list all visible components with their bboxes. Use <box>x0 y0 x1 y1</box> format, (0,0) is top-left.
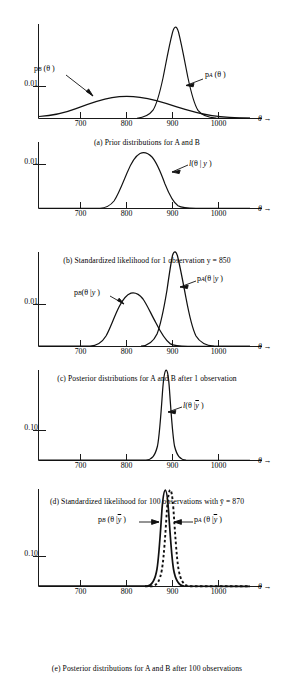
panel-e-curve-p-b-given-ybar <box>39 490 250 586</box>
panel-c: 0.01 θ → 700 800 900 1000 pB(θ | <box>0 246 294 364</box>
panel-e: 0.10 θ → 700 800 900 1000 pB (θ <box>0 487 294 605</box>
panel-a-label-p-a-theta: pA (θ ) <box>205 70 226 79</box>
panel-c-x-tick-800: 800 <box>112 347 141 356</box>
panel-e-plot: θ → <box>0 487 294 605</box>
panel-c-plot: θ → <box>0 246 294 364</box>
panel-b-curve-likelihood <box>39 153 250 209</box>
panel-e-x-tick-700: 700 <box>66 587 95 596</box>
panel-b-label-likelihood: l(θ | y ) <box>189 159 212 168</box>
panel-d-x-tick-700: 700 <box>66 461 95 470</box>
panel-c-x-tick-700: 700 <box>66 347 95 356</box>
panel-d-plot: θ → <box>0 364 294 482</box>
panel-d-x-tick-1000: 1000 <box>204 461 233 470</box>
panel-e-label-p-a-given-ybar: pA (θ |y ) <box>194 515 222 524</box>
panel-c-label-p-a-given-y: pA(θ |y ) <box>197 274 223 283</box>
panel-d-x-tick-900: 900 <box>158 461 187 470</box>
panel-c-axes <box>33 252 262 347</box>
panel-e-theta-axis-label: θ → <box>258 582 272 591</box>
panel-e-label-p-b-given-ybar: pB (θ |y ) <box>98 515 126 524</box>
panel-a: 0.01 θ → 700 800 900 1000 pB (θ <box>0 6 294 124</box>
panel-b-leader-likelihood <box>172 165 188 174</box>
panel-a-curve-p-a <box>137 27 250 118</box>
panel-a-theta-axis-label: θ → <box>258 114 272 123</box>
panel-a-leader-p-b <box>66 75 93 96</box>
panel-b-x-tick-900: 900 <box>158 209 187 218</box>
panel-b-x-tick-1000: 1000 <box>204 209 233 218</box>
panel-c-curve-p-b-given-y <box>39 293 250 346</box>
panel-a-label-p-b-theta: pB (θ ) <box>34 64 55 73</box>
panel-c-leader-p-b <box>110 296 124 304</box>
panel-b: 0.01 θ → 700 800 900 1000 l(θ | y ) <box>0 126 294 244</box>
panel-e-leader-p-a <box>174 520 193 525</box>
panel-d-label-likelihood-ybar: l(θ |y ) <box>183 401 204 410</box>
panel-b-x-tick-800: 800 <box>112 209 141 218</box>
panel-c-label-p-b-given-y: pB(θ |y ) <box>74 288 100 297</box>
panel-e-axes <box>33 489 262 587</box>
panel-e-x-tick-900: 900 <box>158 587 187 596</box>
panel-b-theta-axis-label: θ → <box>258 204 272 213</box>
panel-b-x-tick-700: 700 <box>66 209 95 218</box>
panel-c-curve-p-a-given-y <box>141 252 250 347</box>
panel-d-x-tick-800: 800 <box>112 461 141 470</box>
panel-e-x-tick-800: 800 <box>112 587 141 596</box>
panel-b-axes <box>33 142 262 209</box>
panel-d-curve-likelihood-ybar <box>39 370 250 460</box>
panel-e-caption: (e) Posterior distributions for A and B … <box>0 664 294 673</box>
panel-c-x-tick-900: 900 <box>158 347 187 356</box>
panel-e-leader-p-b <box>139 520 159 525</box>
panel-d-leader-likelihood <box>168 407 182 414</box>
panel-d-axes <box>33 370 262 461</box>
panel-e-x-tick-1000: 1000 <box>204 587 233 596</box>
panel-d-theta-axis-label: θ → <box>258 456 272 465</box>
panel-a-axes <box>33 24 262 119</box>
panel-c-theta-axis-label: θ → <box>258 342 272 351</box>
panel-d: 0.10 θ → 700 800 900 1000 l(θ |y ) <box>0 364 294 482</box>
panel-c-x-tick-1000: 1000 <box>204 347 233 356</box>
panel-b-plot: θ → <box>0 126 294 244</box>
